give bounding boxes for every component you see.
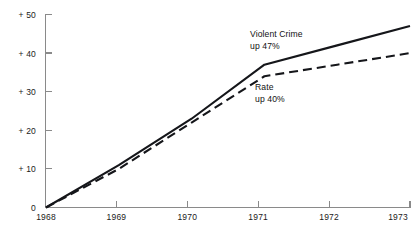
x-axis-label-1969: 1969 [94, 212, 138, 222]
annotation-violent-crime-value: up 47% [250, 41, 303, 53]
x-axis-label-1973: 1973 [376, 212, 420, 222]
x-axis-label-1972: 1972 [307, 212, 351, 222]
y-axis-label-30: + 30 [2, 87, 36, 97]
series-line-rate [46, 53, 410, 207]
y-axis-label-50: + 50 [2, 10, 36, 20]
annotation-violent-crime: Violent Crime up 47% [250, 29, 303, 52]
x-axis-label-1968: 1968 [24, 212, 68, 222]
annotation-violent-crime-title: Violent Crime [250, 29, 303, 41]
annotation-rate-title: Rate [255, 82, 285, 94]
x-axis-label-1970: 1970 [165, 212, 209, 222]
annotation-rate: Rate up 40% [255, 82, 285, 105]
series-line-violent-crime [46, 26, 410, 207]
x-axis-label-1971: 1971 [236, 212, 280, 222]
chart-plot-area [0, 0, 420, 231]
chart-container: + 50 + 40 + 30 + 20 + 10 0 1968 1969 197… [0, 0, 420, 231]
y-axis-label-20: + 20 [2, 126, 36, 136]
y-axis-label-10: + 10 [2, 164, 36, 174]
y-axis-label-40: + 40 [2, 49, 36, 59]
annotation-rate-value: up 40% [255, 94, 285, 106]
